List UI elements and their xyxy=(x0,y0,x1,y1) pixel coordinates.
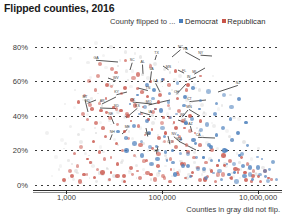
gridline-y xyxy=(33,116,281,117)
data-point xyxy=(241,164,245,168)
point-label: GA xyxy=(94,56,99,60)
data-point xyxy=(225,129,229,133)
data-point xyxy=(217,107,220,110)
point-label: CA xyxy=(196,133,201,137)
data-point xyxy=(204,161,207,164)
data-point xyxy=(79,145,83,149)
data-point xyxy=(229,177,232,180)
data-point xyxy=(196,127,198,129)
data-point xyxy=(167,83,171,87)
data-point xyxy=(110,85,113,88)
data-point xyxy=(151,114,154,117)
data-point xyxy=(202,112,206,116)
data-point xyxy=(76,164,80,168)
data-point xyxy=(114,71,117,74)
data-point xyxy=(90,97,93,100)
data-point xyxy=(242,174,246,178)
chart-caption: Counties in gray did not flip. xyxy=(186,205,280,214)
data-point xyxy=(161,174,165,178)
data-point xyxy=(205,122,209,126)
data-point xyxy=(98,150,101,153)
data-point xyxy=(195,156,198,159)
data-point xyxy=(181,164,185,168)
data-point xyxy=(104,66,108,70)
legend-item-democrat[interactable]: Democrat xyxy=(179,17,217,26)
data-point xyxy=(176,81,179,84)
gridline-y xyxy=(33,185,281,186)
point-label: NV xyxy=(171,132,176,136)
data-point xyxy=(252,169,255,172)
data-point xyxy=(102,151,104,153)
data-point xyxy=(170,168,172,170)
data-point xyxy=(164,165,167,168)
data-point xyxy=(199,128,203,132)
data-point xyxy=(95,180,98,183)
data-point xyxy=(171,149,175,153)
point-label: NM xyxy=(145,132,150,136)
data-point xyxy=(250,157,253,160)
point-label: ME xyxy=(125,125,130,129)
y-tick-label: 0% xyxy=(0,181,28,190)
data-point xyxy=(167,100,171,104)
data-point xyxy=(158,170,161,173)
legend-item-republican[interactable]: Republican xyxy=(222,17,266,26)
data-point xyxy=(218,159,220,161)
data-point xyxy=(119,59,121,61)
data-point xyxy=(138,176,142,180)
point-label: KY xyxy=(114,90,119,94)
data-point xyxy=(106,167,108,169)
data-point xyxy=(119,109,123,113)
data-point xyxy=(239,177,241,179)
point-label: SC xyxy=(130,58,135,62)
data-point xyxy=(146,76,149,79)
data-point xyxy=(128,170,131,173)
data-point xyxy=(89,161,92,164)
leader-line xyxy=(155,55,157,60)
data-point xyxy=(94,127,96,129)
data-point xyxy=(129,103,131,105)
legend-swatch-democrat xyxy=(179,19,183,23)
data-point xyxy=(125,69,128,72)
data-point xyxy=(136,72,140,76)
point-label: OK xyxy=(130,98,135,102)
data-point xyxy=(186,83,190,87)
data-point xyxy=(110,156,113,159)
point-label: MT xyxy=(82,95,87,99)
data-point xyxy=(60,138,64,142)
data-point xyxy=(101,126,105,130)
leader-line xyxy=(172,50,181,57)
x-axis-line xyxy=(33,190,282,191)
data-point xyxy=(136,170,138,172)
data-point xyxy=(94,121,98,125)
data-point xyxy=(140,153,144,157)
point-label: WV xyxy=(113,76,119,80)
x-tick-label: 1,000 xyxy=(57,193,76,202)
data-point xyxy=(124,148,129,153)
data-point xyxy=(124,50,128,54)
data-point xyxy=(72,178,75,181)
data-point xyxy=(158,172,160,174)
data-point xyxy=(90,107,94,111)
data-point xyxy=(242,140,246,144)
data-point xyxy=(123,130,126,133)
data-point xyxy=(206,89,211,94)
data-point xyxy=(150,80,152,82)
data-point xyxy=(173,172,177,176)
legend-swatch-republican xyxy=(222,19,226,23)
data-point xyxy=(105,83,109,87)
data-point xyxy=(199,119,202,122)
legend-prefix: County flipped to ... xyxy=(110,17,175,26)
data-point xyxy=(230,138,233,141)
data-point xyxy=(108,116,112,120)
data-point xyxy=(244,121,247,124)
data-point xyxy=(221,172,225,176)
data-point xyxy=(89,177,91,179)
point-label: CO xyxy=(167,140,172,144)
point-label: SD xyxy=(114,104,119,108)
data-point xyxy=(121,159,124,162)
gridline-y xyxy=(33,47,281,48)
data-point xyxy=(202,156,205,159)
data-point xyxy=(160,126,164,130)
data-point xyxy=(225,149,228,152)
point-label: WI xyxy=(180,113,184,117)
